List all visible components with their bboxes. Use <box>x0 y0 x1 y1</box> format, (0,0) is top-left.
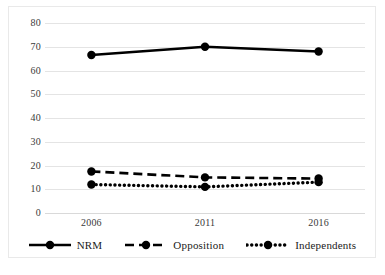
chart-legend: NRMOppositionIndependents <box>8 235 376 255</box>
y-tick-label-80: 80 <box>7 18 41 28</box>
y-axis: 01020304050607080 <box>0 0 41 275</box>
legend-item-independents[interactable]: Independents <box>246 239 356 251</box>
y-tick-label-30: 30 <box>7 137 41 147</box>
data-point-independents-2006 <box>87 180 95 188</box>
legend-item-opposition[interactable]: Opposition <box>124 239 224 251</box>
y-tick-label-70: 70 <box>7 42 41 52</box>
data-point-independents-2011 <box>201 183 209 191</box>
y-tick-label-0: 0 <box>7 208 41 218</box>
data-point-independents-2016 <box>314 178 322 186</box>
legend-swatch-nrm-icon <box>28 239 72 251</box>
legend-item-nrm[interactable]: NRM <box>28 239 103 251</box>
y-tick-label-60: 60 <box>7 66 41 76</box>
y-tick-label-20: 20 <box>7 161 41 171</box>
legend-label-independents: Independents <box>295 239 356 251</box>
x-tick-label-2011: 2011 <box>175 217 235 229</box>
data-point-nrm-2011 <box>201 43 209 51</box>
y-tick-label-40: 40 <box>7 113 41 123</box>
series-opposition <box>87 167 323 183</box>
series-nrm <box>87 43 323 60</box>
legend-label-nrm: NRM <box>77 239 103 251</box>
x-tick-label-2006: 2006 <box>61 217 121 229</box>
gridline-0 <box>45 213 365 214</box>
x-tick-label-2016: 2016 <box>289 217 349 229</box>
line-chart-figure: 01020304050607080 200620112016 NRMOpposi… <box>0 0 385 275</box>
legend-label-opposition: Opposition <box>173 239 224 251</box>
x-axis: 200620112016 <box>45 217 365 233</box>
data-point-opposition-2011 <box>201 173 209 181</box>
data-point-opposition-2006 <box>87 167 95 175</box>
y-tick-label-10: 10 <box>7 184 41 194</box>
legend-swatch-independents-icon <box>246 239 290 251</box>
series-layer <box>45 23 365 213</box>
plot-area <box>45 23 365 213</box>
data-point-nrm-2016 <box>314 47 322 55</box>
legend-swatch-opposition-icon <box>124 239 168 251</box>
data-point-nrm-2006 <box>87 51 95 59</box>
y-tick-label-50: 50 <box>7 89 41 99</box>
